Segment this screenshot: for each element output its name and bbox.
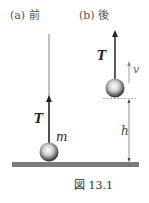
tension-label-b: T	[97, 49, 106, 63]
height-label: h	[121, 124, 129, 138]
ball-b	[106, 79, 125, 98]
height-arrowhead-top	[128, 99, 131, 103]
diagram-canvas	[0, 0, 149, 203]
figure-caption: 図 13.1	[74, 176, 113, 192]
velocity-arrowhead	[127, 61, 131, 66]
tension-arrowhead-b	[112, 30, 118, 37]
panel-b-label: (b) 後	[79, 6, 109, 22]
figure-13-1: (a) 前 (b) 後 T m T v h 図 13.1	[0, 0, 149, 203]
mass-label: m	[56, 130, 67, 144]
tension-label-a: T	[34, 112, 43, 126]
ground	[12, 162, 139, 167]
height-arrowhead-bottom	[128, 158, 131, 162]
tension-arrowhead-a	[46, 95, 52, 102]
velocity-label: v	[133, 63, 139, 76]
ball-a	[40, 143, 59, 162]
panel-a-label: (a) 前	[10, 6, 40, 22]
